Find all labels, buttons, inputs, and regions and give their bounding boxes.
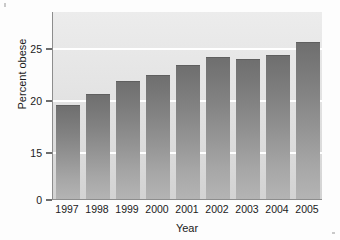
bar [146, 75, 169, 199]
bar [296, 42, 319, 199]
bar [116, 81, 139, 199]
bar [206, 57, 229, 199]
bar [86, 94, 109, 199]
x-tick-label: 1999 [112, 203, 142, 215]
bar [56, 105, 79, 199]
bar-series [53, 12, 322, 199]
x-tick-label: 2005 [292, 203, 322, 215]
bar [176, 65, 199, 199]
x-tick-label: 2003 [232, 203, 262, 215]
scan-speck [332, 232, 335, 234]
y-tick-label: 25 [14, 44, 42, 54]
x-tick-label: 1997 [52, 203, 82, 215]
bar [236, 59, 259, 199]
x-tick-label: 2004 [262, 203, 292, 215]
y-axis-label: Percent obese [16, 4, 28, 144]
y-tick-mark [46, 152, 52, 154]
x-axis-label: Year [52, 222, 322, 234]
y-tick-mark [46, 199, 52, 201]
y-tick-label: 20 [14, 96, 42, 106]
x-tick-label: 2000 [142, 203, 172, 215]
y-tick-mark [46, 100, 52, 102]
plot-area [52, 12, 322, 200]
bar [266, 55, 289, 199]
x-tick-label: 2001 [172, 203, 202, 215]
y-tick-mark [46, 48, 52, 50]
y-tick-label: 15 [14, 148, 42, 158]
x-tick-label: 2002 [202, 203, 232, 215]
chart-figure: Percent obese 0152025 199719981999200020… [0, 0, 340, 240]
y-tick-label: 0 [14, 195, 42, 205]
x-tick-label: 1998 [82, 203, 112, 215]
